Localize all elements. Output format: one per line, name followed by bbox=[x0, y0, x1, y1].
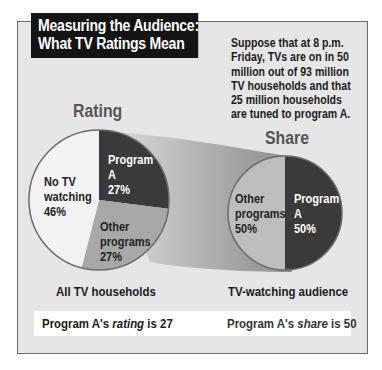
share-summary: Program A's share is 50 bbox=[227, 316, 356, 331]
rating-caption: All TV households bbox=[56, 284, 156, 299]
intro-line: million out of 93 million bbox=[231, 65, 372, 79]
share-caption: TV-watching audience bbox=[228, 284, 348, 299]
intro-line: TV households and that bbox=[231, 79, 372, 93]
intro-line: Friday, TVs are on in 50 bbox=[231, 50, 372, 64]
intro-line: are tuned to program A. bbox=[231, 107, 372, 121]
rating-summary: Program A's rating is 27 bbox=[42, 316, 173, 331]
intro-line: Suppose that at 8 p.m. bbox=[231, 36, 372, 50]
rating-heading: Rating bbox=[73, 101, 122, 122]
page-title: Measuring the Audience: What TV Ratings … bbox=[31, 13, 198, 58]
intro-text: Suppose that at 8 p.m. Friday, TVs are o… bbox=[231, 36, 372, 122]
title-line-1: Measuring the Audience: bbox=[38, 17, 198, 35]
intro-line: 25 million households bbox=[231, 93, 372, 107]
share-heading: Share bbox=[265, 128, 309, 149]
title-line-2: What TV Ratings Mean bbox=[38, 35, 198, 53]
